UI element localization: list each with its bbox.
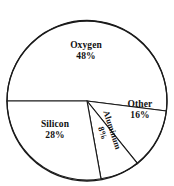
pie-label-other-value: 16% — [113, 110, 167, 121]
pie-chart-figure: Oxygen 48% Other 16% Silicon 28% Aluminu… — [0, 0, 174, 186]
pie-label-silicon-value: 28% — [17, 130, 93, 141]
pie-label-oxygen: Oxygen 48% — [48, 40, 124, 61]
pie-label-other: Other 16% — [113, 99, 167, 120]
pie-chart-canvas — [0, 0, 174, 186]
pie-label-silicon: Silicon 28% — [17, 119, 93, 140]
pie-slice-oxygen[interactable] — [7, 20, 167, 111]
pie-label-silicon-name: Silicon — [17, 119, 93, 130]
pie-label-oxygen-value: 48% — [48, 51, 124, 62]
pie-label-other-name: Other — [113, 99, 167, 110]
pie-slice-silicon[interactable] — [7, 101, 101, 180]
pie-label-oxygen-name: Oxygen — [48, 40, 124, 51]
